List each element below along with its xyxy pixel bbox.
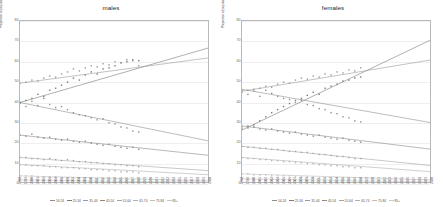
- legend-item-75-84[interactable]: 75-84: [150, 199, 164, 203]
- legend-item-16-24[interactable]: 16-24: [272, 199, 286, 203]
- data-point: [259, 174, 260, 175]
- x-axis-tick-label: 2030: [431, 177, 434, 184]
- data-point: [324, 164, 325, 165]
- data-point: [114, 170, 115, 171]
- data-point: [307, 163, 308, 164]
- data-point: [289, 82, 290, 83]
- data-point: [126, 148, 127, 149]
- series-45-54: [242, 126, 430, 149]
- data-point: [242, 128, 243, 129]
- legend-label: 35-44: [89, 199, 97, 203]
- y-axis-tick-label: 80: [231, 19, 241, 23]
- data-point: [265, 148, 266, 149]
- legend-label: 25-34: [295, 199, 303, 203]
- legend-item-85+[interactable]: 85+: [389, 199, 400, 203]
- data-point: [330, 86, 331, 87]
- data-point: [108, 163, 109, 164]
- data-point: [336, 156, 337, 157]
- y-gridline: [20, 184, 208, 185]
- data-point: [242, 146, 243, 147]
- data-point: [73, 141, 74, 142]
- data-point: [79, 79, 80, 80]
- data-point: [242, 126, 243, 127]
- legend-item-85+[interactable]: 85+: [167, 199, 178, 203]
- data-point: [271, 87, 272, 88]
- legend-label: 75-84: [156, 199, 164, 203]
- legend-label: 65-74: [139, 199, 147, 203]
- x-axis-tick-label: 2005: [283, 177, 286, 184]
- data-point: [289, 99, 290, 100]
- data-point: [301, 133, 302, 134]
- legend-label: 16-24: [56, 199, 64, 203]
- y-axis-title-females: Proportion of population of given age gr…: [221, 0, 225, 28]
- data-point: [271, 149, 272, 150]
- data-point: [91, 143, 92, 144]
- data-point: [120, 62, 121, 63]
- series-25-34: [20, 47, 208, 103]
- legend-item-65-74[interactable]: 65-74: [133, 199, 147, 203]
- data-point: [37, 165, 38, 166]
- x-axis-tick-label: 2017: [132, 177, 135, 184]
- legend-label: 45-54: [328, 199, 336, 203]
- series-16-24: [242, 89, 430, 123]
- data-point: [102, 145, 103, 146]
- data-point: [79, 168, 80, 169]
- x-axis-tick-label: 2008: [78, 177, 81, 184]
- data-point: [55, 166, 56, 167]
- data-point: [49, 166, 50, 167]
- legend-label: 16-24: [278, 199, 286, 203]
- data-point: [318, 134, 319, 135]
- legend-item-35-44[interactable]: 35-44: [83, 199, 97, 203]
- legend-swatch-icon: [289, 200, 294, 201]
- legend-item-35-44[interactable]: 35-44: [305, 199, 319, 203]
- data-point: [247, 94, 248, 95]
- legend-item-55-64[interactable]: 55-64: [117, 199, 131, 203]
- data-point: [253, 158, 254, 159]
- data-point: [138, 131, 139, 132]
- x-axis-tick-label: 2022: [384, 177, 387, 184]
- data-point: [318, 154, 319, 155]
- data-point: [354, 141, 355, 142]
- data-point: [242, 157, 243, 158]
- data-point: [91, 71, 92, 72]
- data-point: [242, 173, 243, 174]
- data-point: [20, 102, 21, 103]
- data-point: [25, 164, 26, 165]
- legend-item-45-54[interactable]: 45-54: [100, 199, 114, 203]
- x-axis-tick-label: 2004: [277, 177, 280, 184]
- legend-item-25-34[interactable]: 25-34: [67, 199, 81, 203]
- legend-item-16-24[interactable]: 16-24: [50, 199, 64, 203]
- data-point: [259, 88, 260, 89]
- legend-item-25-34[interactable]: 25-34: [289, 199, 303, 203]
- x-axis-tick-label: 2023: [167, 177, 170, 184]
- legend-item-75-84[interactable]: 75-84: [372, 199, 386, 203]
- legend-swatch-icon: [117, 200, 122, 201]
- data-point: [271, 112, 272, 113]
- y-axis-tick-label: 10: [231, 162, 241, 166]
- x-axis-tick-label: 2013: [330, 177, 333, 184]
- data-point: [126, 59, 127, 60]
- data-point: [49, 158, 50, 159]
- data-point: [61, 73, 62, 74]
- data-point: [43, 159, 44, 160]
- series-35-44: [20, 58, 208, 84]
- data-point: [120, 147, 121, 148]
- data-point: [43, 96, 44, 97]
- panel-title-males: males: [0, 4, 222, 11]
- legend-swatch-icon: [83, 200, 88, 201]
- data-point: [138, 60, 139, 61]
- panel-title-females: females: [222, 4, 444, 11]
- data-point: [25, 81, 26, 82]
- data-point: [265, 159, 266, 160]
- x-axis-tick-label: 2022: [162, 177, 165, 184]
- legend-item-45-54[interactable]: 45-54: [322, 199, 336, 203]
- legend-item-55-64[interactable]: 55-64: [339, 199, 353, 203]
- data-point: [67, 109, 68, 110]
- data-point: [324, 88, 325, 89]
- data-point: [277, 109, 278, 110]
- data-point: [242, 90, 243, 91]
- data-point: [360, 67, 361, 68]
- data-point: [31, 165, 32, 166]
- legend-item-65-74[interactable]: 65-74: [355, 199, 369, 203]
- x-axis-tick-label: 2010: [90, 177, 93, 184]
